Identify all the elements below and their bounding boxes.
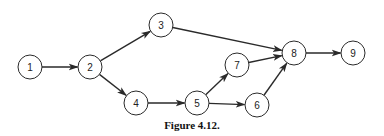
network-diagram: 123456789 xyxy=(0,0,384,136)
node-label: 1 xyxy=(27,62,33,73)
edge-2-to-3 xyxy=(100,31,150,61)
node-label: 8 xyxy=(291,48,297,59)
edge-7-to-8 xyxy=(249,56,282,63)
node-label: 2 xyxy=(87,62,93,73)
node-4: 4 xyxy=(124,91,148,115)
node-6: 6 xyxy=(245,93,269,117)
edge-3-to-8 xyxy=(173,27,282,50)
node-8: 8 xyxy=(282,41,306,65)
edge-5-to-7 xyxy=(206,74,228,95)
edge-5-to-6 xyxy=(209,103,245,104)
figure-caption: Figure 4.12. xyxy=(0,119,384,131)
edge-6-to-8 xyxy=(264,63,287,95)
node-label: 9 xyxy=(350,48,356,59)
node-label: 5 xyxy=(194,98,200,109)
node-label: 7 xyxy=(234,60,240,71)
nodes-group: 123456789 xyxy=(18,13,365,117)
node-label: 3 xyxy=(158,20,164,31)
node-9: 9 xyxy=(341,41,365,65)
node-2: 2 xyxy=(78,55,102,79)
node-label: 4 xyxy=(133,98,139,109)
node-5: 5 xyxy=(185,91,209,115)
node-1: 1 xyxy=(18,55,42,79)
node-7: 7 xyxy=(225,53,249,77)
edge-2-to-4 xyxy=(99,74,126,95)
node-label: 6 xyxy=(254,100,260,111)
node-3: 3 xyxy=(149,13,173,37)
